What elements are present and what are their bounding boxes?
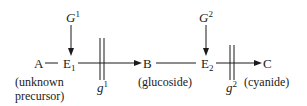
gene-g1-label: g1: [97, 80, 108, 94]
node-A: A: [34, 57, 43, 70]
node-E1: E1: [63, 57, 75, 73]
node-A-note-line1: (unknown: [15, 75, 64, 89]
gene-G2-label: G2: [199, 10, 213, 24]
node-C-note: (cyanide): [244, 75, 289, 89]
arrowhead-b: [134, 60, 142, 66]
node-B-note: (glucoside): [138, 75, 192, 89]
gene-G1-label: G1: [66, 10, 80, 24]
arrowhead-e2: [203, 48, 209, 56]
node-B: B: [143, 57, 152, 70]
node-A-note-line2: precursor): [15, 89, 64, 103]
arrowhead-e1: [68, 48, 74, 56]
arrowhead-c: [254, 60, 262, 66]
node-C: C: [263, 57, 272, 70]
node-E2: E2: [201, 57, 213, 73]
gene-g2-label: g2: [226, 80, 237, 94]
